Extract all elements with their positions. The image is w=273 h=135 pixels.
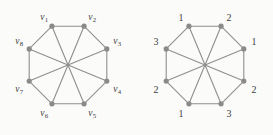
graph-vertex-c6: [186, 101, 191, 106]
color-label-c6: 1: [179, 109, 184, 119]
graph-edge: [84, 26, 107, 49]
graph-vertex-c2: [218, 24, 223, 29]
graph-vertex-c1: [186, 24, 191, 29]
vertex-label-v4: v4: [113, 85, 121, 95]
graph-edge: [221, 81, 244, 104]
graph-vertex-v3: [104, 46, 109, 51]
graph-vertex-c5: [218, 101, 223, 106]
graph-left-vertex-labeled: v1v2v3v4v5v6v7v8: [0, 0, 136, 135]
graph-vertex-c3: [241, 46, 246, 51]
graph-vertex-v6: [49, 101, 54, 106]
color-label-c4: 2: [252, 85, 257, 95]
edge-group: [166, 26, 244, 104]
graph-vertex-c4: [241, 78, 246, 83]
graph-drawing: [137, 0, 273, 135]
color-label-c7: 2: [154, 85, 159, 95]
vertex-label-v3: v3: [113, 37, 121, 47]
graph-vertex-c8: [164, 46, 169, 51]
graph-vertex-v1: [49, 24, 54, 29]
graph-right-color-labeled: 12123123: [137, 0, 273, 135]
graph-vertex-v8: [27, 46, 32, 51]
graph-edge: [166, 26, 189, 49]
graph-edge: [29, 81, 52, 104]
graph-vertex-c7: [164, 78, 169, 83]
color-label-c8: 3: [154, 37, 159, 47]
graph-edge: [29, 26, 52, 49]
vertex-label-v8: v8: [15, 37, 23, 47]
vertex-label-v5: v5: [88, 109, 96, 119]
color-label-c5: 3: [227, 109, 232, 119]
graph-edge: [166, 81, 189, 104]
color-label-c3: 1: [252, 37, 257, 47]
edge-group: [29, 26, 107, 104]
graph-vertex-v5: [81, 101, 86, 106]
vertex-label-v2: v2: [88, 13, 96, 23]
graph-vertex-v7: [27, 78, 32, 83]
color-label-c2: 2: [227, 13, 232, 23]
color-label-c1: 1: [179, 13, 184, 23]
graph-edge: [221, 26, 244, 49]
graph-edge: [84, 81, 107, 104]
figure-canvas: v1v2v3v4v5v6v7v8 12123123: [0, 0, 273, 135]
graph-vertex-v4: [104, 78, 109, 83]
vertex-label-v7: v7: [15, 85, 23, 95]
graph-drawing: [0, 0, 136, 135]
vertex-label-v1: v1: [40, 13, 48, 23]
graph-vertex-v2: [81, 24, 86, 29]
vertex-label-v6: v6: [40, 109, 48, 119]
